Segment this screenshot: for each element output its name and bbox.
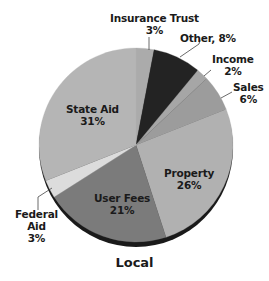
label-property-pct: 26% — [164, 179, 214, 191]
label-income: Income 2% — [212, 53, 254, 77]
label-federal-aid-line2: Aid — [15, 220, 58, 232]
leader-income — [204, 70, 211, 76]
label-other-text: Other, 8% — [180, 32, 236, 44]
chart-title: Local — [0, 255, 269, 270]
label-sales-name: Sales — [233, 81, 264, 93]
label-property: Property 26% — [164, 167, 214, 191]
label-federal-aid-pct: 3% — [15, 232, 58, 244]
label-income-pct: 2% — [212, 65, 254, 77]
label-user-fees: User Fees 21% — [94, 192, 150, 216]
label-property-name: Property — [164, 167, 214, 179]
label-sales: Sales 6% — [233, 81, 264, 105]
label-state-aid-name: State Aid — [66, 103, 119, 115]
label-user-fees-name: User Fees — [94, 192, 150, 204]
label-sales-pct: 6% — [233, 93, 264, 105]
label-federal-aid-line1: Federal — [15, 208, 58, 220]
label-federal-aid: Federal Aid 3% — [15, 208, 58, 244]
label-income-name: Income — [212, 53, 254, 65]
label-state-aid-pct: 31% — [66, 115, 119, 127]
label-state-aid: State Aid 31% — [66, 103, 119, 127]
label-other: Other, 8% — [180, 32, 236, 44]
label-insurance-trust-name: Insurance Trust — [110, 12, 199, 24]
leader-sales — [221, 92, 232, 98]
label-user-fees-pct: 21% — [94, 204, 150, 216]
